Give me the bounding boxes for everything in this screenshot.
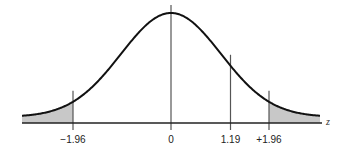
tick-label-pos-1-96: +1.96 bbox=[256, 134, 282, 145]
normal-distribution-chart: z −1.9601.19+1.96 bbox=[0, 0, 337, 153]
tick-label-zero: 0 bbox=[168, 134, 174, 145]
x-axis-label: z bbox=[325, 116, 330, 127]
tick-label-pos-1-19: 1.19 bbox=[221, 134, 241, 145]
tick-label-neg-1-96: −1.96 bbox=[60, 134, 86, 145]
reference-lines bbox=[73, 5, 269, 130]
tick-labels: −1.9601.19+1.96 bbox=[60, 134, 282, 145]
